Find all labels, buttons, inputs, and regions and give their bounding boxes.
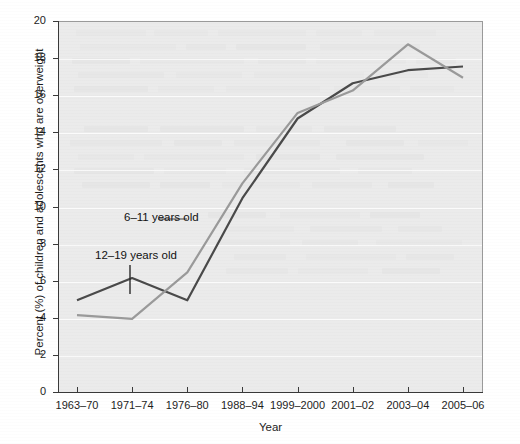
y-tick-mark xyxy=(53,244,58,245)
x-axis-title: Year xyxy=(58,421,483,433)
y-tick-mark xyxy=(53,207,58,208)
y-tick-mark xyxy=(53,21,58,22)
y-tick-mark xyxy=(53,355,58,356)
y-tick-label: 0 xyxy=(0,386,46,397)
y-tick-mark xyxy=(53,132,58,133)
x-tick-mark xyxy=(463,387,464,393)
y-tick-label: 20 xyxy=(0,15,46,26)
y-axis-title: Percent (%) of children and adolescents … xyxy=(33,37,45,367)
overweight-trend-line-chart: 02468101214161820 1963–701971–741976–801… xyxy=(0,0,520,444)
x-tick-mark xyxy=(132,387,133,393)
x-tick-mark xyxy=(408,387,409,393)
y-tick-mark xyxy=(53,169,58,170)
annotation-leader-lines xyxy=(58,22,482,393)
series-label-6-11: 6–11 years old xyxy=(124,211,199,223)
y-tick-mark xyxy=(53,392,58,393)
y-tick-mark xyxy=(53,318,58,319)
y-tick-mark xyxy=(53,58,58,59)
x-axis-line xyxy=(58,392,483,393)
series-label-12-19: 12–19 years old xyxy=(95,249,177,261)
y-axis-line xyxy=(58,21,59,393)
x-tick-mark xyxy=(353,387,354,393)
x-tick-mark xyxy=(298,387,299,393)
x-tick-mark xyxy=(77,387,78,393)
x-tick-label: 2005–06 xyxy=(418,400,508,411)
y-tick-mark xyxy=(53,95,58,96)
plot-area xyxy=(58,21,483,393)
x-tick-mark xyxy=(242,387,243,393)
y-tick-mark xyxy=(53,281,58,282)
x-tick-mark xyxy=(187,387,188,393)
